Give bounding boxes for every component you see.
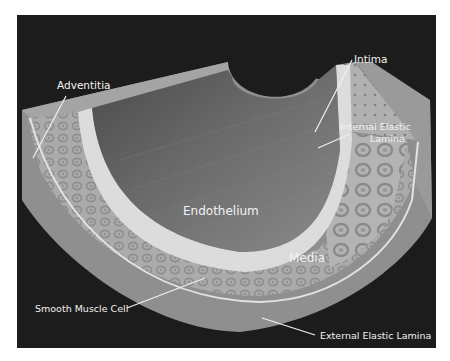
label-adventitia: Adventitia — [57, 79, 111, 91]
label-internal-elastic-lamina-line1: Internal Elastic — [340, 121, 411, 132]
label-external-elastic-lamina: External Elastic Lamina — [320, 330, 431, 341]
label-endothelium: Endothelium — [183, 204, 259, 218]
label-smooth-muscle-cell: Smooth Muscle Cell — [35, 303, 128, 314]
label-internal-elastic-lamina-line2: Lamina — [370, 133, 405, 144]
label-intima: Intima — [354, 53, 387, 65]
artery-cross-section-diagram: Adventitia Intima Internal Elastic Lamin… — [0, 0, 450, 361]
label-media: Media — [289, 251, 325, 265]
